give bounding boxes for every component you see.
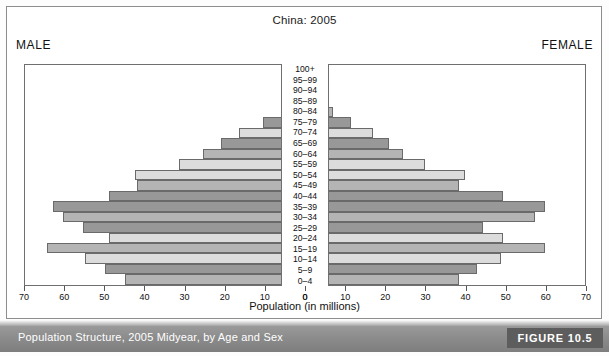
x-axis-label: Population (in millions) <box>0 300 609 312</box>
age-group-label: 10–14 <box>282 254 328 265</box>
age-group-label: 90–94 <box>282 85 328 96</box>
age-group-label: 15–19 <box>282 244 328 255</box>
figure-number-badge: FIGURE 10.5 <box>507 328 603 348</box>
female-half <box>305 107 585 117</box>
axis-tick <box>144 286 145 291</box>
axis-tick <box>466 286 467 291</box>
axis-tick <box>265 286 266 291</box>
age-group-label: 25–29 <box>282 223 328 234</box>
female-half <box>305 75 585 85</box>
female-half <box>305 253 585 263</box>
male-half <box>25 170 305 180</box>
female-half <box>305 128 585 138</box>
axis-tick <box>425 286 426 291</box>
age-group-label: 65–69 <box>282 138 328 149</box>
male-half <box>25 128 305 138</box>
female-bar <box>305 201 545 211</box>
age-group-axis: 100+95–9990–9485–8980–8475–7970–7465–696… <box>281 64 329 286</box>
age-group-label: 35–39 <box>282 202 328 213</box>
female-bar <box>305 233 503 243</box>
male-half <box>25 107 305 117</box>
male-bar <box>53 201 305 211</box>
female-bar <box>305 191 503 201</box>
male-half <box>25 65 305 75</box>
male-bar <box>63 212 305 222</box>
female-half <box>305 117 585 127</box>
age-group-label: 70–74 <box>282 127 328 138</box>
figure-caption: Population Structure, 2005 Midyear, by A… <box>18 331 283 343</box>
figure-number-text: FIGURE 10.5 <box>518 332 593 344</box>
age-group-label: 30–34 <box>282 212 328 223</box>
female-label: FEMALE <box>541 38 593 52</box>
axis-tick <box>305 286 306 291</box>
axis-tick <box>225 286 226 291</box>
age-group-label: 95–99 <box>282 75 328 86</box>
age-group-label: 40–44 <box>282 191 328 202</box>
male-bar <box>109 233 305 243</box>
male-label: MALE <box>16 38 51 52</box>
female-bar <box>305 212 535 222</box>
age-group-label: 45–49 <box>282 180 328 191</box>
x-axis: 706050403020100010203040506070 <box>24 286 586 293</box>
male-half <box>25 233 305 243</box>
male-bar <box>105 264 305 274</box>
male-bar <box>135 170 305 180</box>
female-half <box>305 191 585 201</box>
male-half <box>25 159 305 169</box>
axis-tick <box>385 286 386 291</box>
female-half <box>305 170 585 180</box>
female-half <box>305 222 585 232</box>
female-half <box>305 274 585 284</box>
population-pyramid-figure: China: 2005 MALE FEMALE 100+95–9990–9485… <box>0 0 609 356</box>
male-half <box>25 222 305 232</box>
axis-tick <box>64 286 65 291</box>
axis-tick <box>546 286 547 291</box>
male-half <box>25 274 305 284</box>
male-bar <box>85 253 305 263</box>
male-half <box>25 117 305 127</box>
female-bar <box>305 253 501 263</box>
female-bar <box>305 243 545 253</box>
female-half <box>305 264 585 274</box>
male-half <box>25 253 305 263</box>
male-half <box>25 86 305 96</box>
age-group-label: 0–4 <box>282 276 328 287</box>
female-half <box>305 180 585 190</box>
female-bar <box>305 222 483 232</box>
male-half <box>25 243 305 253</box>
axis-tick <box>506 286 507 291</box>
age-group-label: 50–54 <box>282 170 328 181</box>
female-half <box>305 159 585 169</box>
female-half <box>305 212 585 222</box>
female-half <box>305 138 585 148</box>
axis-tick <box>104 286 105 291</box>
male-half <box>25 138 305 148</box>
male-half <box>25 264 305 274</box>
male-bar <box>137 180 305 190</box>
female-half <box>305 96 585 106</box>
axis-tick <box>185 286 186 291</box>
female-half <box>305 243 585 253</box>
female-half <box>305 86 585 96</box>
chart-title: China: 2005 <box>0 14 609 26</box>
male-half <box>25 201 305 211</box>
female-half <box>305 201 585 211</box>
male-half <box>25 212 305 222</box>
male-half <box>25 149 305 159</box>
male-bar <box>125 274 305 284</box>
male-bar <box>83 222 305 232</box>
male-half <box>25 96 305 106</box>
age-group-label: 80–84 <box>282 106 328 117</box>
male-half <box>25 180 305 190</box>
age-group-label: 60–64 <box>282 149 328 160</box>
axis-tick <box>586 286 587 291</box>
age-group-label: 85–89 <box>282 96 328 107</box>
age-group-label: 5–9 <box>282 265 328 276</box>
male-bar <box>47 243 305 253</box>
male-half <box>25 75 305 85</box>
female-half <box>305 149 585 159</box>
axis-tick <box>345 286 346 291</box>
male-half <box>25 191 305 201</box>
age-group-label: 75–79 <box>282 117 328 128</box>
female-half <box>305 65 585 75</box>
